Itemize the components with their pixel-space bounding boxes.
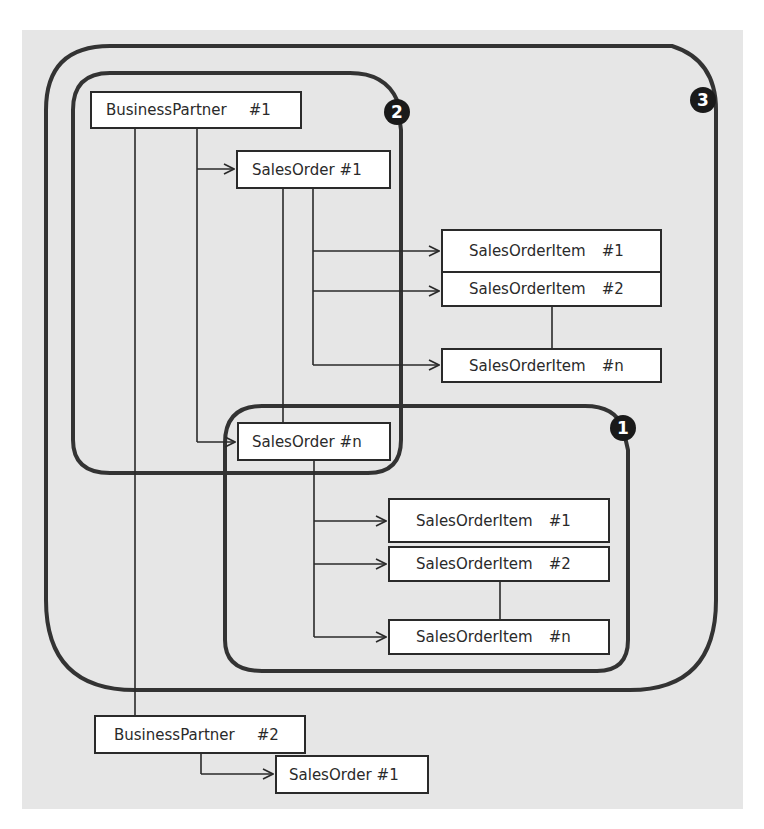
node-business-partner-1[interactable]: BusinessPartner#1 — [90, 91, 302, 129]
node-sales-order-n[interactable]: SalesOrder#n — [237, 422, 391, 461]
node-number: #2 — [257, 726, 279, 744]
node-name: SalesOrderItem — [416, 628, 533, 646]
node-sales-order-1[interactable]: SalesOrder#1 — [236, 150, 391, 189]
node-number: #1 — [340, 161, 362, 179]
node-name: SalesOrderItem — [469, 242, 586, 260]
node-name: SalesOrder — [252, 161, 335, 179]
node-name: SalesOrder — [289, 766, 372, 784]
node-name: SalesOrderItem — [416, 512, 533, 530]
node-name: BusinessPartner — [114, 726, 235, 744]
node-number: #2 — [549, 555, 571, 573]
region-badge-3: 3 — [690, 87, 716, 113]
node-name: SalesOrderItem — [469, 357, 586, 375]
node-sales-order-1-bp2[interactable]: SalesOrder#1 — [275, 755, 429, 794]
node-name: SalesOrder — [252, 433, 335, 451]
node-name: SalesOrderItem — [416, 555, 533, 573]
node-number: #1 — [377, 766, 399, 784]
node-number: #2 — [602, 280, 624, 298]
node-sales-order-item-2[interactable]: SalesOrderItem#2 — [441, 271, 662, 307]
node-sales-order-item-1[interactable]: SalesOrderItem#1 — [388, 498, 610, 543]
node-name: BusinessPartner — [106, 101, 227, 119]
node-number: #n — [602, 357, 624, 375]
node-number: #1 — [249, 101, 271, 119]
node-sales-order-item-n[interactable]: SalesOrderItem#n — [441, 348, 662, 383]
node-business-partner-2[interactable]: BusinessPartner#2 — [94, 715, 306, 754]
node-number: #n — [549, 628, 571, 646]
node-sales-order-item-2[interactable]: SalesOrderItem#2 — [388, 546, 610, 582]
node-name: SalesOrderItem — [469, 280, 586, 298]
node-number: #n — [340, 433, 362, 451]
node-number: #1 — [549, 512, 571, 530]
node-sales-order-item-n[interactable]: SalesOrderItem#n — [388, 619, 610, 655]
node-number: #1 — [602, 242, 624, 260]
region-badge-2: 2 — [384, 99, 410, 125]
node-sales-order-item-1[interactable]: SalesOrderItem#1 — [441, 229, 662, 273]
region-badge-1: 1 — [610, 415, 636, 441]
